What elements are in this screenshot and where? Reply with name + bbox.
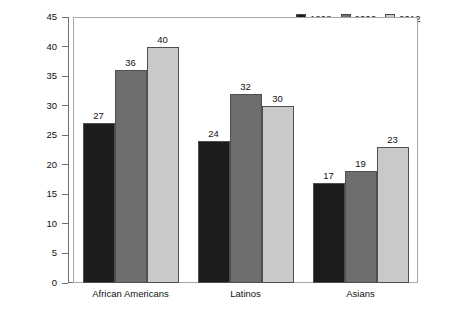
bar-value-label: 30 <box>262 93 294 104</box>
bar-chart-figure: 199820062012 Percent of predominantly (a… <box>0 0 460 317</box>
bar-latinos-2012 <box>262 106 294 283</box>
y-tick-label: 20 <box>0 159 57 171</box>
y-tick-mark <box>62 253 68 254</box>
bar-value-label: 19 <box>345 158 377 169</box>
x-axis-label-african-americans: African Americans <box>73 288 188 300</box>
y-tick-mark <box>62 283 68 284</box>
y-tick-label: 30 <box>0 100 57 112</box>
x-axis-label-asians: Asians <box>303 288 418 300</box>
y-axis-spine <box>68 17 69 283</box>
x-axis-label-latinos: Latinos <box>188 288 303 300</box>
y-tick-mark <box>62 135 68 136</box>
bar-value-label: 17 <box>313 170 345 181</box>
y-tick-mark <box>62 223 68 224</box>
y-tick-label: 40 <box>0 41 57 53</box>
bar-value-label: 36 <box>115 57 147 68</box>
y-tick-mark <box>62 164 68 165</box>
bar-latinos-1998 <box>198 141 230 283</box>
y-tick-label: 0 <box>0 277 57 289</box>
bar-value-label: 32 <box>230 81 262 92</box>
y-tick-label: 45 <box>0 11 57 23</box>
y-tick-label: 15 <box>0 188 57 200</box>
bar-asians-2006 <box>345 171 377 283</box>
bar-african-americans-2006 <box>115 70 147 283</box>
y-tick-label: 35 <box>0 70 57 82</box>
y-tick-mark <box>62 17 68 18</box>
bar-asians-1998 <box>313 183 345 283</box>
bar-value-label: 40 <box>147 34 179 45</box>
y-tick-label: 25 <box>0 129 57 141</box>
y-tick-mark <box>62 194 68 195</box>
bar-african-americans-2012 <box>147 47 179 283</box>
y-tick-mark <box>62 76 68 77</box>
y-tick-mark <box>62 105 68 106</box>
y-tick-label: 10 <box>0 218 57 230</box>
y-tick-mark <box>62 46 68 47</box>
bar-value-label: 23 <box>377 134 409 145</box>
bar-latinos-2006 <box>230 94 262 283</box>
bar-value-label: 27 <box>83 110 115 121</box>
bar-african-americans-1998 <box>83 123 115 283</box>
bar-value-label: 24 <box>198 128 230 139</box>
bar-asians-2012 <box>377 147 409 283</box>
y-tick-label: 5 <box>0 247 57 259</box>
